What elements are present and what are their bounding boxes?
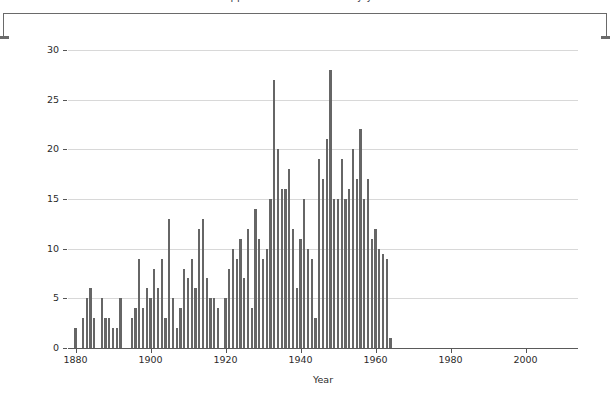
bar: [236, 259, 238, 348]
y-tick-label: 20: [38, 143, 59, 154]
plot-area: 0510152025301880190019201940196019802000: [68, 40, 578, 348]
bar: [187, 278, 189, 348]
y-tick-mark: [63, 100, 67, 101]
bar: [194, 288, 196, 348]
gridline-y: [68, 50, 578, 51]
bar: [232, 249, 234, 348]
bar: [277, 149, 279, 348]
bar: [89, 288, 91, 348]
bar: [371, 239, 373, 348]
y-tick-mark: [63, 199, 67, 200]
bar: [266, 249, 268, 348]
bar: [329, 70, 331, 348]
bar: [378, 249, 380, 348]
bar: [374, 229, 376, 348]
y-tick-mark: [63, 249, 67, 250]
bar: [142, 308, 144, 348]
bar: [273, 80, 275, 348]
bar: [239, 239, 241, 348]
bar: [131, 318, 133, 348]
gridline-y: [68, 100, 578, 101]
bar: [202, 219, 204, 348]
x-tick-mark: [301, 349, 302, 353]
gridline-y: [68, 149, 578, 150]
bar: [296, 288, 298, 348]
x-tick-mark: [76, 349, 77, 353]
x-axis-title: Year: [68, 374, 578, 385]
bar: [326, 139, 328, 348]
bracket-foot-right: [601, 36, 610, 39]
x-tick-label: 1940: [288, 354, 312, 365]
chart-figure: Appendix: amendments by year 05101520253…: [0, 0, 613, 403]
bar: [217, 308, 219, 348]
bar: [333, 199, 335, 348]
y-tick-mark: [63, 50, 67, 51]
y-tick-label: 0: [38, 342, 59, 353]
bar: [209, 298, 211, 348]
bar: [119, 298, 121, 348]
bar: [284, 189, 286, 348]
bar: [134, 308, 136, 348]
y-tick-label: 5: [38, 292, 59, 303]
bar: [382, 254, 384, 348]
bar: [363, 199, 365, 348]
y-tick-label: 25: [38, 94, 59, 105]
bar: [352, 149, 354, 348]
bar: [108, 318, 110, 348]
bar: [303, 199, 305, 348]
bar: [206, 278, 208, 348]
bar: [161, 259, 163, 348]
bar: [112, 328, 114, 348]
bar: [318, 159, 320, 348]
bar: [254, 209, 256, 348]
x-tick-mark: [151, 349, 152, 353]
x-tick-label: 1900: [138, 354, 162, 365]
bar: [367, 179, 369, 348]
bar: [74, 328, 76, 348]
bar: [191, 259, 193, 348]
bar: [243, 278, 245, 348]
bar: [307, 249, 309, 348]
bar: [262, 259, 264, 348]
bar: [224, 298, 226, 348]
bar: [292, 229, 294, 348]
y-tick-label: 10: [38, 243, 59, 254]
bar: [356, 179, 358, 348]
x-axis-line: [68, 348, 578, 349]
bar: [146, 288, 148, 348]
bar: [341, 159, 343, 348]
bar: [138, 259, 140, 348]
bar: [389, 338, 391, 348]
bracket-foot-left: [0, 36, 9, 39]
bar: [337, 199, 339, 348]
bar: [359, 129, 361, 348]
y-tick-mark: [63, 298, 67, 299]
bar: [386, 259, 388, 348]
bar: [149, 298, 151, 348]
x-tick-mark: [526, 349, 527, 353]
chart-title-truncated: Appendix: amendments by year: [0, 0, 613, 4]
y-tick-mark: [63, 348, 67, 349]
x-tick-label: 1920: [213, 354, 237, 365]
x-tick-mark: [376, 349, 377, 353]
bar: [86, 298, 88, 348]
y-tick-label: 15: [38, 193, 59, 204]
bar: [251, 308, 253, 348]
bar: [281, 189, 283, 348]
bar: [269, 199, 271, 348]
bar: [183, 269, 185, 348]
bar: [247, 229, 249, 348]
bar: [314, 318, 316, 348]
x-tick-mark: [226, 349, 227, 353]
bar: [164, 318, 166, 348]
bar: [168, 219, 170, 348]
bar: [116, 328, 118, 348]
figure-bracket-frame: [3, 13, 607, 37]
x-tick-label: 2000: [513, 354, 537, 365]
bar: [322, 179, 324, 348]
y-tick-mark: [63, 149, 67, 150]
bar: [213, 298, 215, 348]
bar: [344, 199, 346, 348]
bar: [104, 318, 106, 348]
bar: [228, 269, 230, 348]
